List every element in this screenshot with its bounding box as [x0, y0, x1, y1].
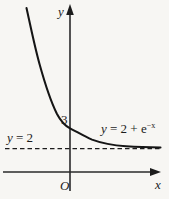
y-axis-arrowhead	[66, 4, 74, 15]
curve-equation-label: y = 2 + e−x	[101, 122, 155, 135]
origin-label: O	[60, 179, 69, 192]
graph-figure: y x O 3 y = 2 y = 2 + e−x	[0, 0, 169, 199]
curve-label-exponent: −x	[147, 121, 156, 130]
y-axis-label: y	[58, 5, 64, 18]
asymptote-label-equation: = 2	[13, 130, 33, 145]
x-axis-arrowhead	[150, 168, 161, 176]
asymptote-label: y = 2	[7, 131, 33, 144]
graph-canvas	[0, 0, 169, 199]
x-axis-label: x	[155, 178, 161, 191]
curve-label-equation: = 2 +	[107, 121, 141, 136]
y-intercept-label: 3	[61, 113, 68, 126]
